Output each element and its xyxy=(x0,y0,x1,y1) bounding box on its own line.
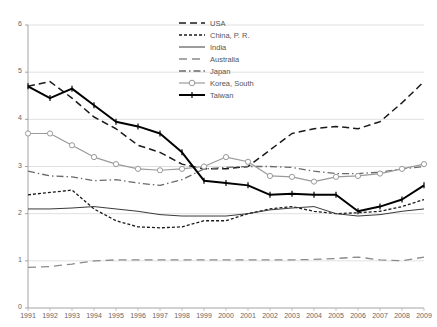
legend-key-swatch xyxy=(178,66,206,76)
chart-legend: USAChina, P. R.IndiaAustraliaJapanKorea,… xyxy=(178,17,254,101)
data-point-marker xyxy=(201,164,206,169)
legend-key-swatch xyxy=(178,30,206,40)
y-tick-label: 3 xyxy=(8,162,22,169)
data-point-marker xyxy=(179,166,184,171)
data-point-marker xyxy=(157,168,162,173)
data-point-marker xyxy=(245,159,250,164)
legend-key-swatch xyxy=(178,78,206,88)
y-tick-label: 5 xyxy=(8,67,22,74)
data-point-marker xyxy=(267,173,272,178)
legend-key-swatch xyxy=(178,54,206,64)
legend-item-label: Taiwan xyxy=(210,91,233,100)
legend-item-label: India xyxy=(210,43,226,52)
legend-item-taiwan: Taiwan xyxy=(178,89,254,101)
legend-item-japan: Japan xyxy=(178,65,254,77)
legend-item-label: Australia xyxy=(210,55,239,64)
legend-item-label: Japan xyxy=(210,67,230,76)
data-point-marker xyxy=(113,162,118,167)
data-point-marker xyxy=(421,162,426,167)
data-point-marker xyxy=(377,171,382,176)
data-point-marker xyxy=(311,179,316,184)
data-point-marker xyxy=(223,154,228,159)
legend-item-korea-south: Korea, South xyxy=(178,77,254,89)
legend-item-india: India xyxy=(178,41,254,53)
data-point-marker xyxy=(289,174,294,179)
legend-item-china-p-r: China, P. R. xyxy=(178,29,254,41)
series-lines xyxy=(25,82,426,268)
y-tick-label: 2 xyxy=(8,209,22,216)
y-tick-label: 6 xyxy=(8,20,22,27)
y-tick-label: 0 xyxy=(8,303,22,310)
y-tick-label: 1 xyxy=(8,256,22,263)
legend-item-label: Korea, South xyxy=(210,79,254,88)
data-point-marker xyxy=(69,143,74,148)
legend-item-label: China, P. R. xyxy=(210,31,249,40)
series-korea-south xyxy=(25,131,426,184)
legend-key-swatch xyxy=(178,18,206,28)
legend-item-australia: Australia xyxy=(178,53,254,65)
data-point-marker xyxy=(399,166,404,171)
x-tick-label: 2009 xyxy=(409,312,437,319)
legend-item-usa: USA xyxy=(178,17,254,29)
data-point-marker xyxy=(333,174,338,179)
data-point-marker xyxy=(355,173,360,178)
data-point-marker xyxy=(25,131,30,136)
series-taiwan xyxy=(28,83,424,214)
series-australia xyxy=(28,257,424,267)
series-india xyxy=(28,207,424,216)
legend-key-swatch xyxy=(178,90,206,100)
y-tick-label: 4 xyxy=(8,114,22,121)
legend-item-label: USA xyxy=(210,19,225,28)
data-point-marker xyxy=(91,154,96,159)
legend-key-swatch xyxy=(178,42,206,52)
data-point-marker xyxy=(135,166,140,171)
data-point-marker xyxy=(47,131,52,136)
